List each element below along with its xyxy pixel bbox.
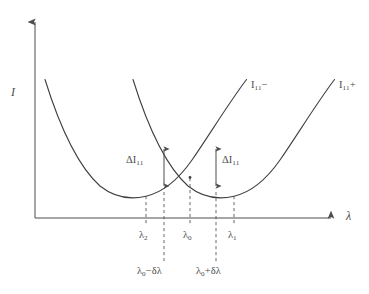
figure-container: I λ I11− I11+ ΔI11 ΔI11 λ2 λ0 λ1 λ0−δλ λ… — [0, 0, 369, 294]
curve-label-i11-minus-sign: − — [262, 79, 268, 90]
curve-label-i11-minus-sub: 11 — [255, 84, 262, 92]
tick-label-lambda1-sub: 1 — [233, 234, 237, 242]
curve-label-i11-minus: I11− — [251, 80, 268, 92]
delta-label-right: ΔI11 — [222, 155, 240, 167]
delta-label-right-sub: 11 — [232, 159, 239, 167]
curve-label-i11-plus: I11+ — [339, 80, 356, 92]
footnote-minus-tail: −δλ — [146, 265, 162, 276]
tick-label-lambda1: λ1 — [228, 230, 237, 242]
footnote-lambda0-minus-delta: λ0−δλ — [137, 266, 162, 278]
y-axis-label: I — [11, 86, 15, 98]
tick-label-lambda0-sub: 0 — [188, 234, 192, 242]
curve-label-i11-plus-sign: + — [350, 79, 356, 90]
tick-label-lambda2-sub: 2 — [144, 234, 148, 242]
tick-label-lambda0: λ0 — [183, 230, 192, 242]
plot-canvas — [0, 0, 369, 294]
delta-label-right-symbol: ΔI — [222, 154, 232, 165]
delta-label-left-symbol: ΔI — [126, 154, 136, 165]
x-axis-label: λ — [346, 210, 351, 222]
footnote-lambda0-plus-delta: λ0+δλ — [196, 266, 221, 278]
delta-label-left: ΔI11 — [126, 155, 144, 167]
curve-label-i11-plus-sub: 11 — [343, 84, 350, 92]
footnote-plus-tail: +δλ — [205, 265, 221, 276]
delta-label-left-sub: 11 — [136, 159, 143, 167]
curve-i11-minus-visible — [46, 28, 247, 80]
tick-label-lambda2: λ2 — [139, 230, 148, 242]
